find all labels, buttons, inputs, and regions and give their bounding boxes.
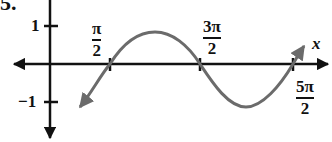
x-axis-label: x bbox=[312, 34, 321, 54]
numerator: 3π bbox=[203, 18, 221, 36]
x-tick-label-5pi-half: 5π 2 bbox=[296, 78, 314, 118]
graph-canvas bbox=[0, 0, 332, 142]
denominator: 2 bbox=[92, 42, 101, 60]
x-tick-label-pi-half: π 2 bbox=[92, 20, 101, 60]
y-tick-label-1: 1 bbox=[31, 16, 40, 36]
numerator: 5π bbox=[296, 78, 314, 96]
y-tick-label-neg1: −1 bbox=[18, 92, 36, 112]
denominator: 2 bbox=[301, 100, 310, 118]
x-tick-label-3pi-half: 3π 2 bbox=[203, 18, 221, 58]
denominator: 2 bbox=[208, 40, 217, 58]
function-curve bbox=[80, 32, 304, 107]
problem-number: 5. bbox=[0, 0, 17, 16]
numerator: π bbox=[92, 20, 101, 38]
